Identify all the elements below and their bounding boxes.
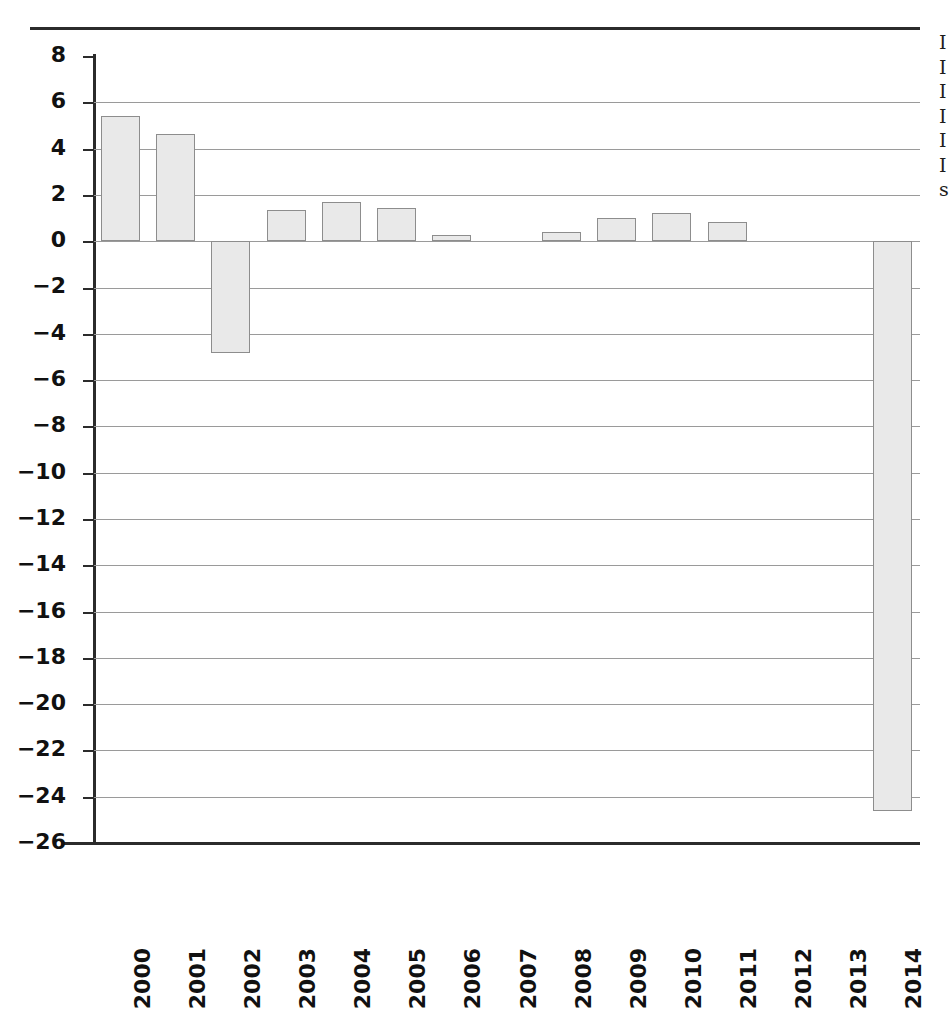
gridline--16 xyxy=(93,612,920,613)
gridline--18 xyxy=(93,658,920,659)
bar-2006[interactable] xyxy=(432,235,471,241)
x-tick-label-2014: 2014 xyxy=(903,948,925,1009)
y-axis-tick-labels: 86420−2−4−6−8−10−12−14−16−18−20−22−24−26 xyxy=(0,0,80,787)
y-tick-mark--26 xyxy=(83,843,94,845)
y-tick-label--16: −16 xyxy=(0,600,80,622)
bar-2010[interactable] xyxy=(652,213,691,241)
y-tick-label-4: 4 xyxy=(0,137,80,159)
gridline--12 xyxy=(93,519,920,520)
x-tick-label-2011: 2011 xyxy=(738,948,760,1009)
y-tick-label--22: −22 xyxy=(0,738,80,760)
y-tick-label--26: −26 xyxy=(0,831,80,853)
y-tick-label--2: −2 xyxy=(0,275,80,297)
y-tick-mark--14 xyxy=(83,565,94,567)
y-tick-mark-4 xyxy=(83,149,94,151)
gridline--24 xyxy=(93,797,920,798)
y-tick-label--10: −10 xyxy=(0,461,80,483)
bar-2011[interactable] xyxy=(708,222,747,242)
margin-text-line-1: I xyxy=(939,30,952,55)
x-tick-label-2000: 2000 xyxy=(132,948,154,1009)
x-tick-label-2010: 2010 xyxy=(683,948,705,1009)
bar-2002[interactable] xyxy=(211,241,250,353)
y-tick-label--20: −20 xyxy=(0,692,80,714)
gridline-6 xyxy=(93,102,920,103)
x-tick-label-2013: 2013 xyxy=(848,948,870,1009)
y-tick-label--6: −6 xyxy=(0,368,80,390)
y-tick-label--4: −4 xyxy=(0,322,80,344)
y-tick-label-2: 2 xyxy=(0,183,80,205)
x-tick-label-2012: 2012 xyxy=(793,948,815,1009)
y-tick-mark-8 xyxy=(83,56,94,58)
clipped-margin-text: IIIIIIs xyxy=(939,30,952,210)
bar-2009[interactable] xyxy=(597,218,636,241)
y-tick-label--8: −8 xyxy=(0,414,80,436)
margin-text-line-6: I xyxy=(939,153,952,178)
bar-2000[interactable] xyxy=(101,116,140,241)
y-tick-label--24: −24 xyxy=(0,785,80,807)
bar-2001[interactable] xyxy=(156,134,195,242)
y-tick-mark--8 xyxy=(83,426,94,428)
y-tick-label-8: 8 xyxy=(0,44,80,66)
x-tick-label-2009: 2009 xyxy=(628,948,650,1009)
margin-text-line-4: I xyxy=(939,104,952,129)
margin-text-line-2: I xyxy=(939,55,952,80)
y-tick-mark--18 xyxy=(83,658,94,660)
gridline--6 xyxy=(93,380,920,381)
x-axis-tick-labels: 2000200120022003200420052006200720082009… xyxy=(93,848,920,958)
plot-area xyxy=(93,56,920,843)
gridline--20 xyxy=(93,704,920,705)
bar-2014[interactable] xyxy=(873,241,912,810)
y-tick-label--18: −18 xyxy=(0,646,80,668)
y-tick-mark-2 xyxy=(83,195,94,197)
gridline--14 xyxy=(93,565,920,566)
gridline-4 xyxy=(93,149,920,150)
y-tick-label--12: −12 xyxy=(0,507,80,529)
y-tick-label-0: 0 xyxy=(0,229,80,251)
bar-2003[interactable] xyxy=(267,210,306,241)
x-tick-label-2004: 2004 xyxy=(352,948,374,1009)
y-tick-mark--10 xyxy=(83,473,94,475)
y-tick-mark--6 xyxy=(83,380,94,382)
y-tick-label--14: −14 xyxy=(0,553,80,575)
bar-2004[interactable] xyxy=(322,202,361,241)
bar-2005[interactable] xyxy=(377,208,416,242)
gridline--22 xyxy=(93,750,920,751)
x-tick-label-2002: 2002 xyxy=(242,948,264,1009)
margin-text-line-7: s xyxy=(939,177,952,202)
x-tick-label-2007: 2007 xyxy=(518,948,540,1009)
y-tick-mark-0 xyxy=(83,241,94,243)
y-tick-mark--20 xyxy=(83,704,94,706)
gridline--10 xyxy=(93,473,920,474)
gridline--8 xyxy=(93,426,920,427)
bar-2008[interactable] xyxy=(542,232,581,241)
y-tick-mark--24 xyxy=(83,797,94,799)
y-tick-mark--4 xyxy=(83,334,94,336)
gridline-2 xyxy=(93,195,920,196)
margin-text-line-5: I xyxy=(939,128,952,153)
margin-text-line-3: I xyxy=(939,79,952,104)
x-tick-label-2006: 2006 xyxy=(462,948,484,1009)
y-tick-label-6: 6 xyxy=(0,90,80,112)
y-tick-mark--22 xyxy=(83,750,94,752)
x-tick-label-2005: 2005 xyxy=(407,948,429,1009)
x-tick-label-2001: 2001 xyxy=(187,948,209,1009)
x-tick-label-2008: 2008 xyxy=(573,948,595,1009)
y-tick-mark--16 xyxy=(83,612,94,614)
y-tick-mark--12 xyxy=(83,519,94,521)
x-tick-label-2003: 2003 xyxy=(297,948,319,1009)
y-tick-mark--2 xyxy=(83,288,94,290)
y-tick-mark-6 xyxy=(83,102,94,104)
